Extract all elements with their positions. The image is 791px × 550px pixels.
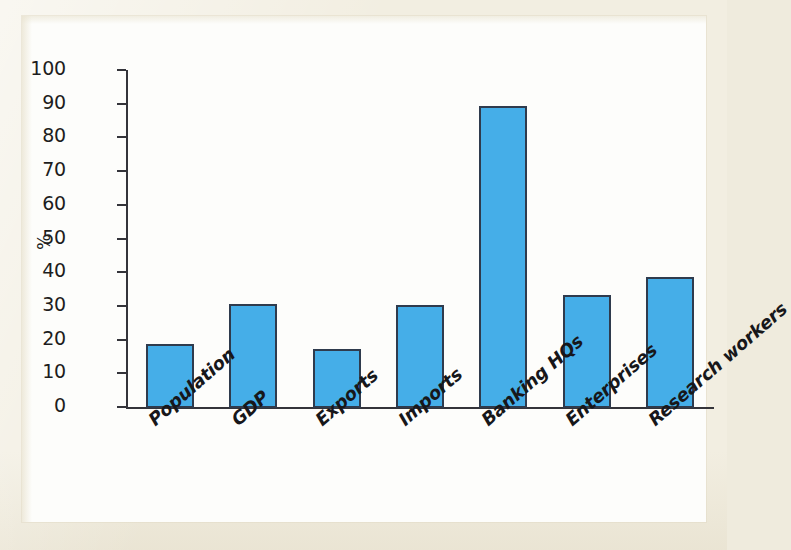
y-axis-tick [117, 238, 126, 240]
bar-chart-plot: % 1009080706050403020100 PopulationGDPEx… [22, 16, 706, 522]
y-axis-tick [117, 103, 126, 105]
y-axis-tick-label: 100 [6, 57, 66, 79]
bar [479, 106, 527, 408]
y-axis-tick [117, 170, 126, 172]
y-axis-tick [117, 204, 126, 206]
y-axis-tick-label: 60 [6, 192, 66, 214]
y-axis-tick [117, 305, 126, 307]
y-axis-tick-label: 50 [6, 226, 66, 248]
y-axis-tick-label: 20 [6, 327, 66, 349]
y-axis-tick-label: 10 [6, 360, 66, 382]
y-axis-tick-label: 70 [6, 158, 66, 180]
chart-figure: % 1009080706050403020100 PopulationGDPEx… [22, 16, 706, 522]
y-axis-tick [117, 372, 126, 374]
y-axis-tick-label: 90 [6, 91, 66, 113]
y-axis-tick-label: 40 [6, 259, 66, 281]
y-axis-tick [117, 406, 126, 408]
y-axis-tick [117, 136, 126, 138]
y-axis-tick [117, 69, 126, 71]
y-axis-tick [117, 339, 126, 341]
y-axis-tick-label: 30 [6, 293, 66, 315]
y-axis-tick-label: 0 [6, 394, 66, 416]
y-axis-tick-label: 80 [6, 124, 66, 146]
y-axis-tick [117, 271, 126, 273]
x-axis-labels: PopulationGDPExportsImportsBanking HQsEn… [128, 414, 712, 518]
